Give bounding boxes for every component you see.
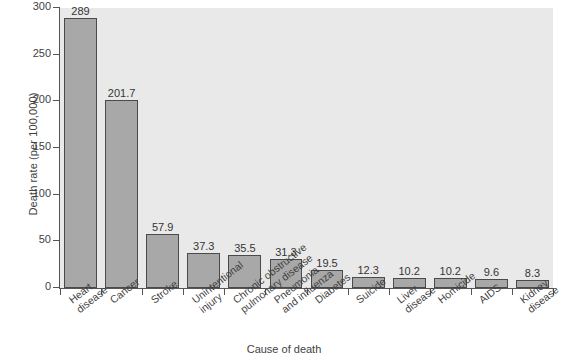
x-axis-tick-mark: [60, 288, 61, 295]
bar-value-label: 10.2: [440, 265, 461, 277]
y-axis-tick-label: 100: [33, 187, 51, 199]
x-axis-tick-mark: [183, 288, 184, 295]
x-axis-tick-mark: [348, 288, 349, 295]
bar-value-label: 37.3: [193, 240, 214, 252]
bar-value-label: 35.5: [234, 242, 255, 254]
y-axis-tick-label: 250: [33, 47, 51, 59]
bar-value-label: 8.3: [525, 267, 540, 279]
bar-value-label: 57.9: [152, 221, 173, 233]
bar: 289: [64, 18, 97, 288]
y-axis-ticks: 050100150200250300: [0, 0, 60, 362]
bar-value-label: 9.6: [484, 266, 499, 278]
bar-value-label: 289: [71, 5, 89, 17]
bar-chart-figure: Death rate (per 100,000) 050100150200250…: [0, 0, 568, 362]
y-axis-tick-label: 50: [39, 233, 51, 245]
y-axis-tick-label: 150: [33, 140, 51, 152]
x-axis-tick-mark: [512, 288, 513, 295]
bar-series: 289201.757.937.335.531.319.512.310.210.2…: [60, 8, 553, 288]
y-axis-tick-label: 200: [33, 93, 51, 105]
plot-area: 289201.757.937.335.531.319.512.310.210.2…: [60, 8, 553, 288]
bar-value-label: 10.2: [398, 265, 419, 277]
x-axis-tick-mark: [471, 288, 472, 295]
bar: 201.7: [105, 100, 138, 288]
y-axis-tick-label: 0: [45, 280, 51, 292]
bar-value-label: 201.7: [108, 87, 136, 99]
bar-value-label: 12.3: [357, 264, 378, 276]
y-axis-tick-label: 300: [33, 0, 51, 12]
x-axis-tick-mark: [142, 288, 143, 295]
x-axis-title: Cause of death: [0, 343, 568, 355]
x-axis-tick-mark: [389, 288, 390, 295]
